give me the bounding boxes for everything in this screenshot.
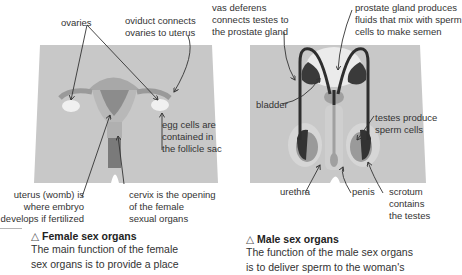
female-caption: △Female sex organs The main function of … (31, 230, 179, 272)
label-testes-line: testes produce (375, 112, 437, 124)
label-cervix-line: sexual organs (129, 213, 216, 225)
label-bladder: bladder (256, 99, 288, 111)
label-scrotum-line: the testes (389, 210, 430, 222)
label-scrotum-line: contains (389, 198, 430, 210)
male-caption-line: The function of the male sex organs (246, 245, 413, 260)
label-egg-cells-line: the follicle sac (162, 143, 222, 155)
triangle-icon: △ (31, 230, 39, 242)
label-cervix: cervix is the opening of the female sexu… (129, 189, 216, 225)
label-vas-deferens-line: connects testes to (212, 14, 289, 26)
label-oviduct: oviduct connects ovaries to uterus (125, 15, 196, 39)
label-vas-deferens-line: vas deferens (212, 2, 289, 14)
section-divider (0, 228, 22, 229)
female-caption-title-text: Female sex organs (42, 230, 137, 242)
label-ovaries: ovaries (61, 17, 92, 29)
label-penis: penis (352, 186, 375, 198)
label-testes-line: sperm cells (375, 124, 437, 136)
label-egg-cells-line: egg cells are (162, 119, 222, 131)
male-caption: △Male sex organs The function of the mal… (246, 233, 413, 275)
label-testes: testes produce sperm cells (375, 112, 437, 136)
female-caption-title: △Female sex organs (31, 230, 179, 242)
label-egg-cells: egg cells are contained in the follicle … (162, 119, 222, 155)
label-prostate-line: cells to make semen (355, 26, 462, 38)
label-uterus-line: where embryo (0, 201, 84, 213)
label-prostate-line: prostate gland produces (355, 2, 462, 14)
female-caption-line: sex organs is to provide a place (31, 257, 179, 272)
label-oviduct-line: ovaries to uterus (125, 27, 196, 39)
label-cervix-line: of the female (129, 201, 216, 213)
triangle-icon: △ (246, 233, 254, 245)
label-oviduct-line: oviduct connects (125, 15, 196, 27)
label-cervix-line: cervix is the opening (129, 189, 216, 201)
label-urethra: urethra (280, 186, 310, 198)
label-prostate-line: fluids that mix with sperm (355, 14, 462, 26)
male-caption-title: △Male sex organs (246, 233, 413, 245)
label-vas-deferens: vas deferens connects testes to the pros… (212, 2, 289, 38)
label-scrotum-line: scrotum (389, 186, 430, 198)
female-caption-line: The main function of the female (31, 242, 179, 257)
male-caption-title-text: Male sex organs (257, 233, 339, 245)
label-egg-cells-line: contained in (162, 131, 222, 143)
label-scrotum: scrotum contains the testes (389, 186, 430, 222)
label-uterus-line: develops if fertilized (0, 213, 84, 225)
label-vas-deferens-line: the prostate gland (212, 26, 289, 38)
label-uterus: uterus (womb) is where embryo develops i… (0, 189, 84, 225)
male-caption-line: is to deliver sperm to the woman's (246, 260, 413, 275)
label-prostate: prostate gland produces fluids that mix … (355, 2, 462, 38)
label-uterus-line: uterus (womb) is (0, 189, 84, 201)
